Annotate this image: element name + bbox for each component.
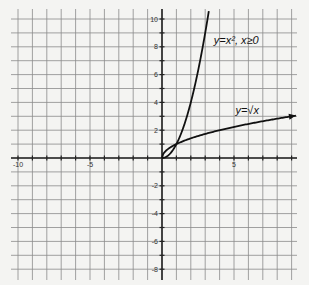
x-tick-label: 5 bbox=[232, 161, 236, 168]
sqrt-curve bbox=[162, 116, 296, 158]
x-tick-label: -5 bbox=[87, 161, 93, 168]
y-tick-label: 2 bbox=[154, 127, 158, 134]
y-tick-label: 10 bbox=[150, 16, 158, 23]
y-tick-label: 6 bbox=[154, 71, 158, 78]
y-tick-label: -2 bbox=[152, 182, 158, 189]
y-tick-label: 4 bbox=[154, 99, 158, 106]
y-tick-label: -6 bbox=[152, 238, 158, 245]
x-tick-label: -10 bbox=[13, 161, 23, 168]
y-tick-label: 8 bbox=[154, 43, 158, 50]
parabola-label: y=x², x≥0 bbox=[213, 34, 260, 46]
y-tick-label: -4 bbox=[152, 210, 158, 217]
arrow-head-icon bbox=[289, 114, 296, 120]
function-graph: -10-55108642-2-4-6-8 y=x², x≥0 y=√x bbox=[0, 0, 309, 285]
y-tick-label: -8 bbox=[152, 266, 158, 273]
sqrt-label: y=√x bbox=[234, 104, 259, 116]
